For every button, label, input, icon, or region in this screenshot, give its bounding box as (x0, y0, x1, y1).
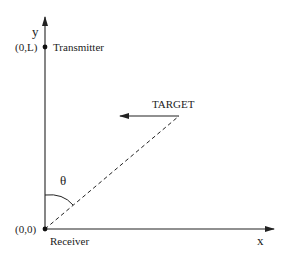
x-axis-label: x (257, 233, 264, 248)
y-axis-label: y (32, 24, 39, 39)
target-label: TARGET (152, 98, 195, 110)
transmitter-label: Transmitter (53, 41, 104, 53)
theta-label: θ (60, 173, 66, 188)
origin-coord-label: (0,0) (15, 223, 36, 236)
origin-point (43, 227, 48, 232)
transmitter-coord-label: (0,L) (15, 41, 38, 54)
transmitter-point (43, 45, 48, 50)
theta-angle-arc (45, 195, 73, 205)
receiver-label: Receiver (50, 235, 89, 247)
geometry-diagram: y x (0,L) Transmitter (0,0) Receiver TAR… (0, 0, 288, 256)
